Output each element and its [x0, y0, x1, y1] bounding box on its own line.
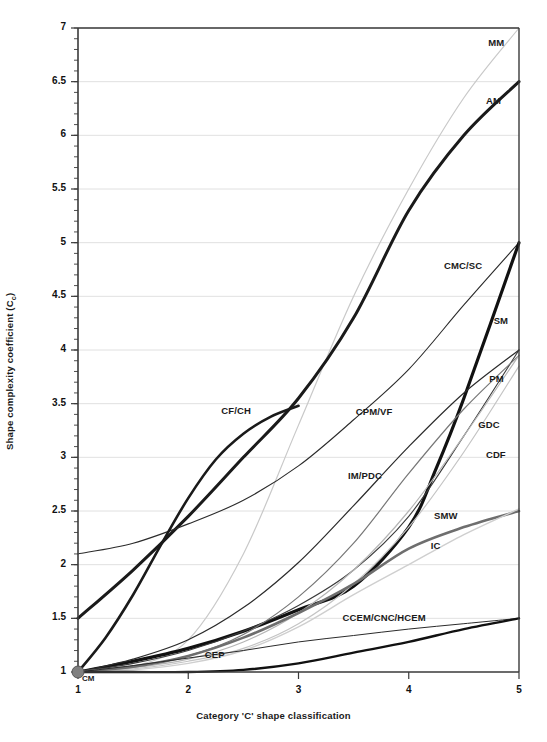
x-axis-title: Category 'C' shape classification [0, 710, 547, 721]
x-tick-label: 1 [63, 684, 93, 695]
series-label-gdc: GDC [478, 419, 499, 430]
y-tick-label: 5.5 [26, 182, 66, 193]
series-label-smw: SMW [434, 510, 458, 521]
y-tick-label: 6 [26, 128, 66, 139]
series-label-cpm-vf: CPM/VF [356, 406, 393, 417]
major-ticks-group [71, 28, 519, 679]
y-tick-label: 4 [26, 343, 66, 354]
series-label-ccem-cnc-hcem: CCEM/CNC/HCEM [343, 612, 426, 623]
series-label-am: AM [486, 95, 501, 106]
y-tick-label: 2.5 [26, 504, 66, 515]
y-tick-label: 6.5 [26, 75, 66, 86]
x-tick-label: 4 [394, 684, 424, 695]
y-axis-title: Shape complexity coefficient (Cc) [4, 293, 17, 450]
series-label-pm: PM [489, 373, 503, 384]
y-tick-label: 1.5 [26, 611, 66, 622]
y-tick-label: 2 [26, 558, 66, 569]
series-label-cep: CEP [205, 649, 225, 660]
y-tick-label: 1 [26, 665, 66, 676]
y-axis-title-close: ) [4, 293, 15, 296]
x-tick-label: 2 [173, 684, 203, 695]
series-label-mm: MM [488, 37, 504, 48]
x-tick-label: 5 [504, 684, 534, 695]
series-label-cdf: CDF [486, 449, 506, 460]
y-tick-label: 5 [26, 236, 66, 247]
series-line-ic [78, 509, 519, 672]
y-tick-label: 4.5 [26, 289, 66, 300]
x-tick-label: 3 [284, 684, 314, 695]
series-label-sm: SM [494, 315, 508, 326]
chart-figure: 11.522.533.544.555.566.57 12345 MMAMCMC/… [0, 0, 547, 742]
series-label-cf-ch: CF/CH [221, 405, 251, 416]
series-label-cmc-sc: CMC/SC [444, 260, 482, 271]
y-tick-label: 3 [26, 450, 66, 461]
y-axis-title-subscript: c [10, 296, 17, 300]
y-tick-label: 7 [26, 21, 66, 32]
series-label-ic: IC [431, 540, 441, 551]
origin-marker-label: CM [82, 674, 94, 683]
y-tick-label: 3.5 [26, 397, 66, 408]
y-axis-title-text: Shape complexity coefficient (C [4, 300, 15, 450]
series-line-smw [78, 511, 519, 672]
series-label-im-pdc: IM/PDC [348, 470, 382, 481]
chart-plot-area [0, 0, 547, 742]
